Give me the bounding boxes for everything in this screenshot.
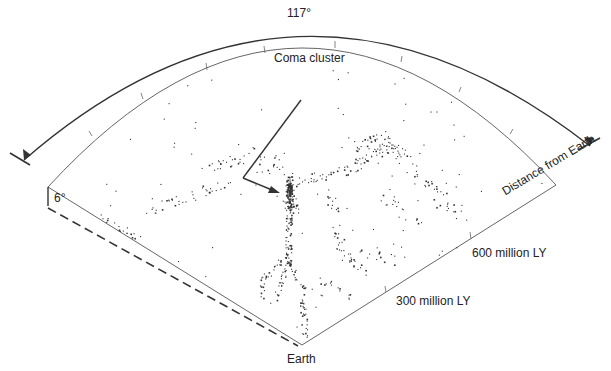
distance-tick-600-label: 600 million LY (472, 247, 546, 259)
earth-label: Earth (287, 353, 316, 365)
radial-axis-ticks (385, 232, 471, 292)
thickness-label: 6° (54, 192, 65, 204)
galaxy-points (101, 70, 543, 338)
coma-cluster-label: Coma cluster (274, 52, 345, 64)
coma-pointer-arrowhead-icon (268, 186, 280, 193)
distance-tick-300-label: 300 million LY (396, 295, 470, 307)
opening-angle-label: 117° (285, 7, 313, 19)
arc-left-arrowhead-icon (10, 149, 31, 165)
